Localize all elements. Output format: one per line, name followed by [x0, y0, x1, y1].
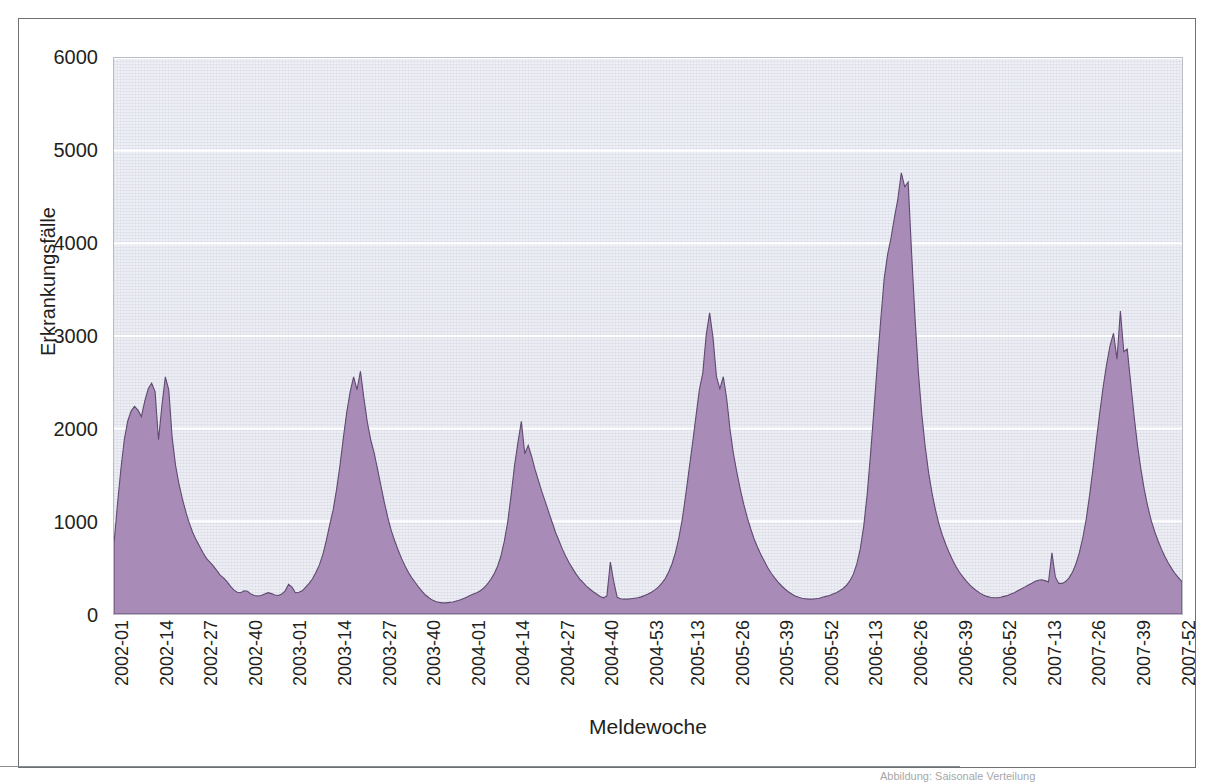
x-tick-label: 2006-52 — [1000, 620, 1021, 686]
area-series-chart — [114, 58, 1182, 614]
y-tick-label: 3000 — [54, 325, 99, 348]
x-tick-label: 2005-13 — [688, 620, 709, 686]
x-tick-label: 2002-01 — [112, 620, 133, 686]
x-tick-label: 2006-26 — [911, 620, 932, 686]
x-tick-label: 2003-01 — [290, 620, 311, 686]
x-axis-tick-labels: 2002-012002-142002-272002-402003-012003-… — [113, 620, 1183, 712]
x-tick-label: 2003-40 — [424, 620, 445, 686]
x-axis-title: Meldewoche — [113, 715, 1183, 739]
y-tick-label: 1000 — [54, 511, 99, 534]
chart-figure: Erkrankungsfälle 01000200030004000500060… — [0, 0, 1216, 784]
x-tick-label: 2002-27 — [201, 620, 222, 686]
x-tick-label: 2007-26 — [1089, 620, 1110, 686]
x-tick-label: 2002-40 — [245, 620, 266, 686]
y-tick-label: 5000 — [54, 139, 99, 162]
x-tick-label: 2005-39 — [777, 620, 798, 686]
y-tick-label: 0 — [87, 604, 98, 627]
x-tick-label: 2005-26 — [732, 620, 753, 686]
x-tick-label: 2004-14 — [513, 620, 534, 686]
x-tick-label: 2004-40 — [602, 620, 623, 686]
y-tick-label: 6000 — [54, 46, 99, 69]
page-divider-rule — [0, 766, 960, 767]
x-tick-label: 2006-13 — [866, 620, 887, 686]
y-tick-label: 4000 — [54, 232, 99, 255]
y-axis-tick-labels: 0100020003000400050006000 — [0, 57, 106, 615]
y-tick-label: 2000 — [54, 418, 99, 441]
x-tick-label: 2007-52 — [1178, 620, 1199, 686]
area-series-erkrankungsfaelle — [114, 173, 1182, 614]
plot-area — [113, 57, 1183, 615]
x-tick-label: 2002-14 — [156, 620, 177, 686]
x-tick-label: 2005-52 — [821, 620, 842, 686]
x-tick-label: 2004-53 — [647, 620, 668, 686]
x-tick-label: 2003-14 — [334, 620, 355, 686]
x-tick-label: 2007-13 — [1044, 620, 1065, 686]
x-tick-label: 2006-39 — [955, 620, 976, 686]
x-tick-label: 2004-01 — [468, 620, 489, 686]
x-tick-label: 2007-39 — [1133, 620, 1154, 686]
x-tick-label: 2004-27 — [557, 620, 578, 686]
x-tick-label: 2003-27 — [379, 620, 400, 686]
page-footnote: Abbildung: Saisonale Verteilung — [880, 770, 1210, 782]
